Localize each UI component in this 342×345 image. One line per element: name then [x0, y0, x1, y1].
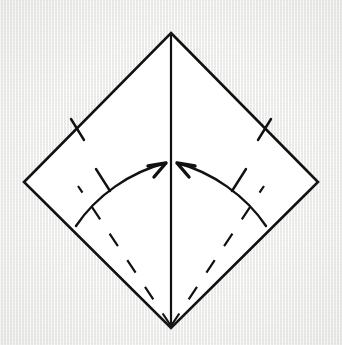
origami-diagram-figure [0, 0, 342, 345]
origami-diagram-canvas [0, 0, 342, 345]
